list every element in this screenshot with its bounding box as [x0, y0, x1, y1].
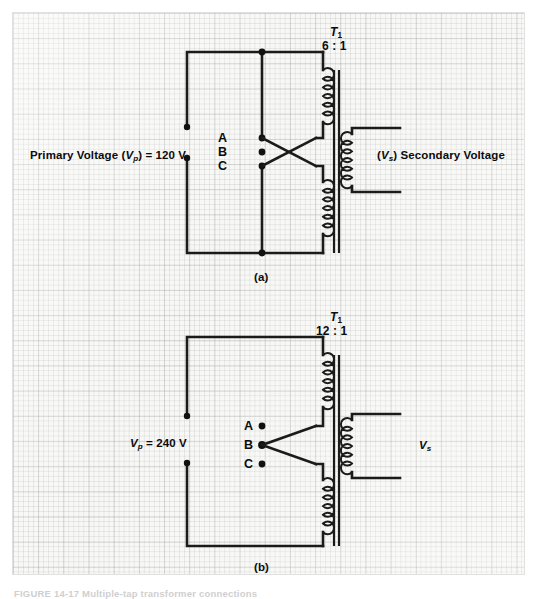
- primary-loop-a-bottom: [187, 158, 323, 253]
- panel-a-circuit: [184, 49, 400, 257]
- primary-loop-a-top: [187, 52, 323, 127]
- primary-voltage-label-b: Vp = 240 V: [130, 438, 187, 451]
- primary-lower-coil-a: [323, 180, 334, 236]
- secondary-lead-top-b: [352, 414, 400, 420]
- primary-terminal-b-top: [184, 413, 190, 419]
- lower-winding-lead-top-b: [316, 464, 323, 480]
- tap-label-a-A: A: [218, 132, 227, 145]
- junction-a-bottom: [259, 250, 266, 257]
- primary-terminal-a-top: [184, 124, 190, 130]
- tap-label-b-A: A: [244, 420, 253, 433]
- transformer-name-a: T1: [330, 26, 342, 40]
- tap-label-a-B: B: [218, 146, 227, 159]
- upper-winding-lead-bottom-a: [316, 122, 323, 138]
- tap-label-b-B: B: [244, 439, 253, 452]
- upper-winding-lead-bottom-b: [316, 407, 323, 426]
- primary-upper-coil-b: [323, 353, 334, 409]
- tap-label-a-C: C: [218, 160, 227, 173]
- circuit-drawing: [0, 0, 537, 599]
- primary-voltage-label-a: Primary Voltage (Vp) = 120 V: [30, 150, 186, 163]
- secondary-voltage-label-b: Vs: [419, 440, 431, 453]
- turns-ratio-a: 6 : 1: [322, 40, 347, 52]
- tap-point-a-B: [259, 149, 266, 156]
- primary-loop-b-top: [187, 337, 323, 416]
- turns-ratio-b: 12 : 1: [316, 325, 347, 337]
- tap-point-b-C: [259, 461, 266, 468]
- tap-point-b-A: [259, 423, 266, 430]
- center-tap-lead-b-lower: [262, 445, 316, 464]
- secondary-lead-top-a: [352, 128, 400, 134]
- lower-winding-lead-top-a: [316, 166, 323, 182]
- primary-terminal-b-bottom: [184, 460, 190, 466]
- primary-lower-coil-b: [323, 478, 334, 534]
- figure-caption: FIGURE 14-17 Multiple-tap transformer co…: [14, 588, 257, 599]
- tap-label-b-C: C: [244, 458, 253, 471]
- primary-upper-coil-a: [323, 68, 334, 124]
- secondary-voltage-label-a: (Vs) Secondary Voltage: [377, 150, 505, 163]
- panel-b-circuit: [184, 337, 400, 546]
- primary-loop-b-bottom: [187, 463, 323, 546]
- panel-caption-b: (b): [254, 562, 269, 574]
- transformer-name-b: T1: [330, 311, 342, 325]
- secondary-lead-bottom-a: [352, 186, 400, 192]
- secondary-coil-b: [341, 418, 352, 474]
- center-tap-lead-b-upper: [262, 426, 316, 445]
- panel-caption-a: (a): [254, 272, 268, 284]
- secondary-lead-bottom-b: [352, 472, 400, 478]
- secondary-coil-a: [341, 132, 352, 188]
- junction-a-top: [259, 49, 266, 56]
